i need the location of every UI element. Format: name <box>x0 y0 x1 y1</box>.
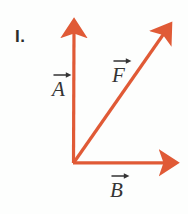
vector-f-letter: F <box>112 56 125 86</box>
vector-f-label: F <box>112 56 125 86</box>
vector-a-label: A <box>52 70 65 100</box>
vector-b-letter: B <box>110 171 123 201</box>
vector-f-line <box>74 32 166 163</box>
vector-a-line <box>74 30 75 163</box>
vector-b-label: B <box>110 171 123 201</box>
vector-a-letter: A <box>52 70 65 100</box>
vector-canvas <box>0 0 188 214</box>
vector-diagram: I. A F B <box>0 0 188 214</box>
item-number-label: I. <box>15 28 25 45</box>
